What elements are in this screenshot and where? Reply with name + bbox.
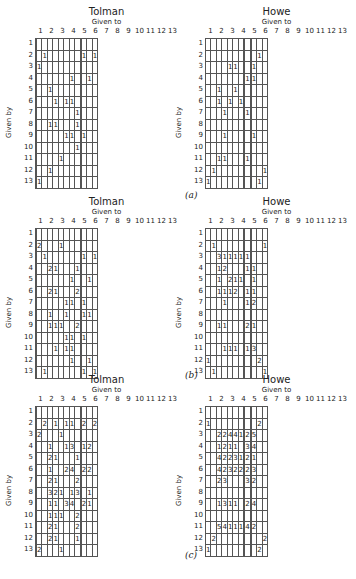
matrix-cell: 2 — [233, 464, 238, 476]
matrix-cell: 2 — [222, 464, 227, 476]
matrix-cell: 1 — [53, 418, 58, 430]
col-header: 6 — [260, 217, 271, 225]
col-header: 5 — [249, 395, 260, 403]
matrix-cell: 1 — [227, 499, 232, 511]
matrix-cell: 1 — [211, 240, 216, 252]
matrix-cell: 1 — [69, 487, 74, 499]
col-axis-label: Given to — [205, 386, 348, 394]
matrix-title: Tolman — [35, 374, 178, 385]
col-header: 10 — [134, 395, 145, 403]
matrix-cell: 3 — [222, 476, 227, 488]
matrix-cell: 1 — [37, 62, 42, 74]
matrix-cell: 2 — [53, 487, 58, 499]
row-header: 5 — [19, 453, 33, 461]
matrix-cell: 2 — [75, 522, 80, 534]
row-header: 9 — [189, 499, 203, 507]
matrix-cell: 2 — [216, 430, 221, 442]
matrix-cell: 1 — [69, 418, 74, 430]
matrix-cell: 1 — [64, 418, 69, 430]
matrix-cell — [92, 85, 97, 97]
matrix-cell: 1 — [216, 154, 221, 166]
col-header: 3 — [57, 27, 68, 35]
matrix-cell: 1 — [53, 453, 58, 465]
col-axis-label: Given to — [35, 18, 178, 26]
row-axis-label: Given by — [175, 107, 183, 138]
row-header: 10 — [189, 511, 203, 519]
matrix-cell: 2 — [233, 286, 238, 298]
matrix-cell — [92, 165, 97, 177]
matrix-cell: 1 — [81, 298, 86, 310]
row-header: 11 — [189, 154, 203, 162]
col-header: 11 — [315, 395, 326, 403]
col-header: 6 — [260, 395, 271, 403]
matrix-cell: 1 — [87, 355, 92, 367]
matrix-cell: 1 — [216, 441, 221, 453]
col-header: 2 — [216, 395, 227, 403]
row-header: 3 — [189, 62, 203, 70]
matrix-cell — [92, 355, 97, 367]
matrix-grid: 113111111211121111112111121121111131211 — [205, 228, 268, 379]
matrix-cell: 1 — [206, 177, 211, 189]
row-header: 9 — [19, 321, 33, 329]
matrix-cell: 3 — [233, 453, 238, 465]
matrix-cell: 1 — [222, 154, 227, 166]
matrix-cell: 1 — [87, 499, 92, 511]
row-header: 6 — [19, 97, 33, 105]
matrix-cell — [262, 321, 267, 333]
matrix-cell: 1 — [233, 85, 238, 97]
matrix-cell: 1 — [251, 453, 256, 465]
col-header: 7 — [271, 395, 282, 403]
matrix-cell: 1 — [222, 344, 227, 356]
row-header: 3 — [19, 62, 33, 70]
col-header: 1 — [205, 27, 216, 35]
matrix-cell — [92, 96, 97, 108]
matrix-cell: 1 — [75, 108, 80, 120]
matrix-cell — [92, 533, 97, 545]
matrix-cell: 1 — [222, 298, 227, 310]
row-header: 12 — [19, 356, 33, 364]
col-header: 1 — [35, 27, 46, 35]
col-header: 8 — [112, 395, 123, 403]
matrix-cell — [92, 499, 97, 511]
col-header: 13 — [167, 217, 178, 225]
matrix-cell: 1 — [257, 50, 262, 62]
row-header: 13 — [19, 545, 33, 553]
col-header: 9 — [123, 395, 134, 403]
matrix-cell — [92, 298, 97, 310]
matrix-cell: 1 — [64, 441, 69, 453]
matrix-cell: 1 — [245, 286, 250, 298]
row-header: 2 — [19, 419, 33, 427]
matrix-cell: 2 — [245, 453, 250, 465]
col-header: 3 — [227, 27, 238, 35]
matrix-cell: 1 — [251, 131, 256, 143]
col-header: 2 — [46, 395, 57, 403]
matrix-cell: 2 — [227, 453, 232, 465]
matrix-cell — [92, 407, 97, 419]
col-header: 4 — [68, 27, 79, 35]
matrix-cell: 1 — [58, 510, 63, 522]
matrix-title: Howe — [205, 196, 348, 207]
matrix-cell — [92, 240, 97, 252]
matrix-cell: 3 — [47, 487, 52, 499]
matrix-cell: 2 — [222, 441, 227, 453]
matrix-cell: 2 — [257, 418, 262, 430]
matrix-cell — [262, 499, 267, 511]
row-header: 12 — [189, 534, 203, 542]
matrix-cell — [262, 263, 267, 275]
matrix-cell — [92, 510, 97, 522]
matrix-cell: 1 — [245, 108, 250, 120]
matrix-cell: 2 — [75, 476, 80, 488]
matrix-cell: 2 — [251, 298, 256, 310]
matrix-cell — [262, 108, 267, 120]
matrix-cell — [92, 522, 97, 534]
caption-c: (c) — [185, 550, 197, 560]
matrix-cell: 1 — [47, 119, 52, 131]
matrix-cell — [262, 39, 267, 51]
matrix-cell: 1 — [238, 522, 243, 534]
row-header: 8 — [189, 488, 203, 496]
row-header: 3 — [189, 430, 203, 438]
matrix-cell: 1 — [47, 441, 52, 453]
matrix-cell: 1 — [238, 430, 243, 442]
matrix-cell — [262, 441, 267, 453]
row-axis-label: Given by — [5, 107, 13, 138]
